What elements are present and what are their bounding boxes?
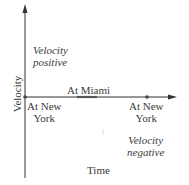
origin-dot	[23, 95, 27, 99]
y-axis-label: Velocity	[11, 69, 23, 119]
right-new-york-label: At New York	[129, 100, 164, 124]
at-miami-label: At Miami	[67, 84, 110, 96]
new-york-dot	[145, 95, 149, 99]
velocity-negative-label: Velocity negative	[127, 134, 164, 158]
y-axis-arrowhead	[23, 4, 28, 13]
x-axis-label: Time	[87, 164, 110, 176]
velocity-time-diagram: Velocity Velocity positive At Miami At N…	[0, 0, 189, 185]
x-axis-arrowhead	[168, 95, 177, 100]
origin-new-york-label: At New York	[27, 100, 62, 124]
velocity-positive-label: Velocity positive	[33, 44, 68, 68]
